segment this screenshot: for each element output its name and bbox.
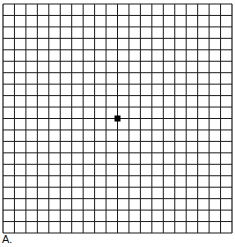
amsler-grid xyxy=(0,0,235,247)
center-fixation-dot xyxy=(115,116,121,122)
figure-label: A. xyxy=(2,233,12,245)
